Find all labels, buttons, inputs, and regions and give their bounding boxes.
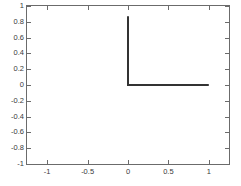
y-tick-label-3: 0.4	[14, 50, 24, 58]
chart-figure: 1 0.8 0.6 0.4 0.2 0 -0.2 -0.4 -0.6 -0.8 …	[0, 0, 241, 186]
x-tick-label-0: -1	[44, 168, 51, 176]
x-tick-label-1: -0.5	[81, 168, 94, 176]
x-tick-label-3: 0.5	[163, 168, 173, 176]
y-tick-left-10	[27, 164, 31, 165]
y-tick-right-10	[225, 164, 229, 165]
plot-axes-box: 1 0.8 0.6 0.4 0.2 0 -0.2 -0.4 -0.6 -0.8 …	[26, 5, 230, 165]
x-tick-label-2: 0	[126, 168, 130, 176]
y-tick-label-9: -0.8	[11, 144, 24, 152]
y-tick-label-0: 1	[20, 2, 24, 10]
step-function-line	[27, 6, 229, 164]
y-tick-label-6: -0.2	[11, 97, 24, 105]
y-tick-label-10: -1	[17, 160, 24, 168]
y-tick-label-8: -0.6	[11, 129, 24, 137]
y-tick-label-2: 0.6	[14, 34, 24, 42]
y-tick-label-5: 0	[20, 81, 24, 89]
y-tick-label-4: 0.2	[14, 65, 24, 73]
data-series-layer	[27, 6, 229, 164]
x-tick-label-4: 1	[207, 168, 211, 176]
y-tick-label-7: -0.4	[11, 113, 24, 121]
y-tick-label-1: 0.8	[14, 18, 24, 26]
